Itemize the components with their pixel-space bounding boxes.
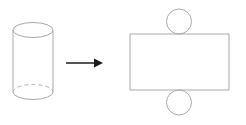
cylinder-bottom-front-arc-icon <box>13 92 53 100</box>
lateral-surface-rectangle-icon <box>130 34 229 90</box>
diagram-canvas: Cylinder and its net <box>0 0 246 125</box>
cylinder-net-diagram: Cylinder and its net <box>0 0 246 125</box>
cylinder-net-figure <box>130 9 229 115</box>
arrow-head <box>94 59 103 68</box>
cylinder-figure <box>13 23 53 100</box>
top-base-circle-icon <box>167 9 192 34</box>
bottom-base-circle-icon <box>167 90 192 115</box>
transformation-arrow-icon <box>66 59 103 68</box>
cylinder-top-ellipse-icon <box>13 23 53 38</box>
cylinder-hidden-bottom-arc-icon <box>13 85 53 92</box>
